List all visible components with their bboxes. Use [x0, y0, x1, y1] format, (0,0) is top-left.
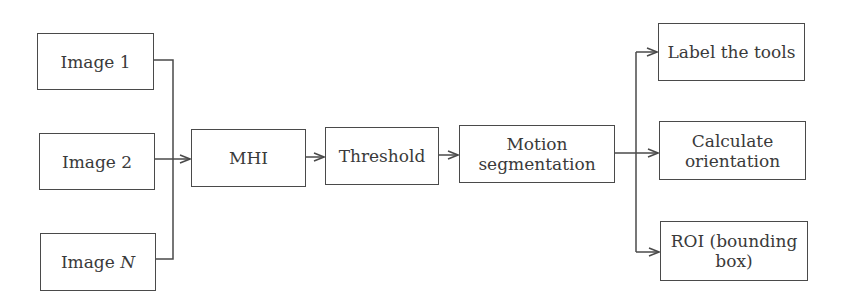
calculate-orientation-box: Calculate orientation: [659, 121, 806, 180]
label-tools-label: Label the tools: [668, 42, 796, 62]
calculate-orientation-line1: Calculate: [692, 131, 774, 151]
input-image-1-label: Image 1: [60, 52, 130, 72]
roi-line1: ROI (bounding: [671, 231, 798, 251]
mhi-box: MHI: [191, 129, 306, 187]
threshold-box: Threshold: [325, 127, 439, 185]
image-n-prefix: Image: [61, 252, 120, 272]
label-tools-box: Label the tools: [658, 23, 805, 81]
motion-segmentation-box: Motion segmentation: [459, 125, 615, 183]
roi-line2: box): [715, 251, 752, 271]
calculate-orientation-line2: orientation: [685, 151, 780, 171]
roi-bounding-box: ROI (bounding box): [660, 221, 808, 281]
threshold-label: Threshold: [339, 146, 426, 166]
mhi-label: MHI: [229, 148, 268, 168]
input-image-1: Image 1: [37, 33, 154, 90]
input-image-n-label: Image N: [61, 252, 135, 272]
motion-segmentation-line1: Motion: [506, 134, 567, 154]
input-image-n: Image N: [40, 233, 156, 291]
input-image-2: Image 2: [39, 133, 155, 190]
motion-segmentation-line2: segmentation: [478, 154, 595, 174]
image-n-variable: N: [120, 252, 135, 272]
input-image-2-label: Image 2: [62, 152, 132, 172]
